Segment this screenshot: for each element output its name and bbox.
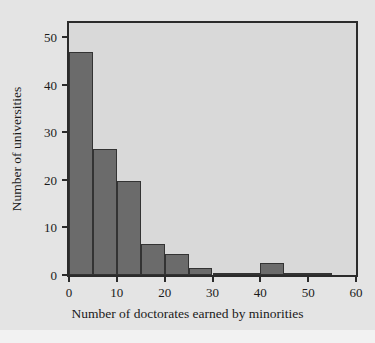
histogram-bar bbox=[117, 181, 141, 275]
x-axis-tick bbox=[68, 276, 70, 282]
y-axis-tick bbox=[62, 226, 68, 228]
histogram-figure: 010203040500102030405060 Number of docto… bbox=[0, 0, 375, 330]
x-axis-tick bbox=[259, 276, 261, 282]
histogram-bar bbox=[189, 268, 213, 275]
bars-layer bbox=[69, 23, 356, 275]
histogram-bar bbox=[165, 254, 189, 275]
y-axis-tick bbox=[62, 131, 68, 133]
x-axis-tick-label: 60 bbox=[336, 286, 375, 299]
x-axis-tick bbox=[212, 276, 214, 282]
y-axis-tick bbox=[62, 36, 68, 38]
histogram-bar bbox=[69, 52, 93, 275]
y-axis-tick bbox=[62, 179, 68, 181]
histogram-bar bbox=[308, 273, 332, 275]
x-axis-tick-label: 50 bbox=[288, 286, 328, 299]
histogram-bar bbox=[260, 263, 284, 275]
x-axis-tick-label: 40 bbox=[240, 286, 280, 299]
x-axis-tick-label: 10 bbox=[97, 286, 137, 299]
y-axis-title: Number of universities bbox=[9, 59, 25, 239]
histogram-bar bbox=[141, 244, 165, 275]
x-axis-tick-label: 0 bbox=[49, 286, 89, 299]
x-axis-tick bbox=[116, 276, 118, 282]
histogram-bar bbox=[213, 273, 237, 275]
histogram-bar bbox=[236, 273, 260, 275]
x-axis-tick bbox=[355, 276, 357, 282]
x-axis-tick bbox=[164, 276, 166, 282]
x-axis-tick-label: 20 bbox=[145, 286, 185, 299]
caption-strip bbox=[0, 330, 375, 343]
histogram-bar bbox=[284, 273, 308, 275]
x-axis-tick bbox=[307, 276, 309, 282]
y-axis-tick-label: 0 bbox=[0, 269, 57, 282]
y-axis-tick bbox=[62, 84, 68, 86]
histogram-bar bbox=[93, 149, 117, 275]
y-axis-tick-label: 50 bbox=[0, 31, 57, 44]
x-axis-tick-label: 30 bbox=[193, 286, 233, 299]
plot-area bbox=[67, 21, 358, 277]
x-axis-title: Number of doctorates earned by minoritie… bbox=[0, 306, 375, 322]
